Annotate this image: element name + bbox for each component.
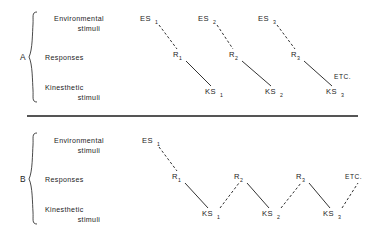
panel-b-link-r3-ks3 [309,183,330,208]
diagram-canvas: A Environmental stimuli Responses Kinest… [0,0,384,234]
panel-a-link-es1-r1 [159,25,177,49]
panel-a-node-es2: ES 2 [198,14,216,25]
panel-a-node-r1-subscript: 1 [179,55,182,61]
panel-a-link-r1-ks1 [186,61,211,86]
panel-a-node-ks1: KS 1 [205,87,223,98]
panel-a-node-es2-base: ES [198,14,209,23]
panel-a-node-es2-subscript: 2 [213,19,216,25]
panel-b-node-ks2-base: KS [262,209,273,218]
panel-a-node-ks2-base: KS [265,87,276,96]
panel-b-row-labels: Environmental stimuli Responses Kinesthe… [45,137,104,224]
panel-b-node-r1: R 1 [172,172,181,183]
panel-a-node-es3: ES 3 [258,14,276,25]
panel-a-node-r3-subscript: 3 [297,55,300,61]
panel-b-link-ks3-etc [342,183,358,208]
panel-a-node-ks3-base: KS [326,87,337,96]
panel-a-node-es1: ES 1 [140,14,158,25]
panel-a-node-ks1-subscript: 1 [220,92,223,98]
panel-b-link-es1-r1 [159,147,177,171]
panel-a-links [159,25,332,86]
panel-b-node-r2-subscript: 2 [240,177,243,183]
panel-b-link-ks2-r3 [281,183,301,208]
panel-a-node-ks1-base: KS [205,87,216,96]
panel-a-node-ks3: KS 3 [326,87,344,98]
panel-a-node-es1-subscript: 1 [155,19,158,25]
panel-b-brace-icon [29,133,37,224]
panel-a-node-r1: R 1 [173,50,182,61]
panel-b-label-environmental-line1: Environmental [54,137,104,145]
panel-b-node-ks3-subscript: 3 [338,214,341,220]
panel-b-node-ks3: KS 3 [323,209,341,220]
panel-a-label-environmental-line1: Environmental [54,15,104,23]
panel-a-nodes: ES 1 ES 2 ES 3 R 1 R 2 [140,14,351,98]
panel-a-node-ks3-subscript: 3 [341,92,344,98]
panel-b-etc-label: ETC. [345,173,362,180]
panel-b-node-ks3-base: KS [323,209,334,218]
panel-a-node-r2-subscript: 2 [235,55,238,61]
panel-b-label-responses: Responses [45,176,84,184]
panel-b-link-ks1-r2 [220,183,239,208]
panel-b-link-r2-ks2 [247,183,269,208]
panel-b-node-r3: R 3 [296,172,305,183]
panel-a-node-r2: R 2 [229,50,238,61]
panel-a-brace-icon [29,12,37,102]
panel-b-letter: B [20,174,26,184]
panel-a-node-es3-base: ES [258,14,269,23]
panel-b-links [159,147,358,208]
panel-b-node-ks2: KS 2 [262,209,280,220]
panel-a-etc-label: ETC. [334,73,351,80]
panel-b-label-environmental-line2: stimuli [78,147,101,155]
panel-b-node-ks1: KS 1 [202,209,220,220]
panel-b-node-es1-base: ES [142,136,153,145]
panel-b-brace-group: B [20,133,37,224]
panel-b-label-kinesthetic-line2: stimuli [78,216,101,224]
panel-a-label-kinesthetic-line1: Kinesthetic [45,84,84,92]
panel-b-node-r3-subscript: 3 [302,177,305,183]
panel-b-link-r1-ks1 [185,183,208,208]
panel-a-row-labels: Environmental stimuli Responses Kinesthe… [45,15,104,102]
panel-a-label-responses: Responses [45,54,84,62]
panel-a-link-r3-ks3 [304,61,332,86]
panel-a-link-es2-r2 [217,25,233,49]
panel-b-node-es1-subscript: 1 [157,141,160,147]
panel-a-label-environmental-line2: stimuli [78,25,101,33]
panel-a-node-es3-subscript: 3 [273,19,276,25]
panel-b: B Environmental stimuli Responses Kinest… [20,133,362,224]
panel-a-node-r3: R 3 [291,50,300,61]
panel-a-node-ks2: KS 2 [265,87,283,98]
diagram-figure: A Environmental stimuli Responses Kinest… [0,0,384,234]
panel-a-label-kinesthetic-line2: stimuli [78,94,101,102]
panel-b-node-es1: ES 1 [142,136,160,147]
panel-a-brace-group: A [20,12,37,102]
panel-a-link-r2-ks2 [242,61,271,86]
panel-b-node-r2: R 2 [234,172,243,183]
panel-b-node-ks1-base: KS [202,209,213,218]
panel-b-node-r1-subscript: 1 [178,177,181,183]
panel-b-label-kinesthetic-line1: Kinesthetic [45,206,84,214]
panel-a-node-es1-base: ES [140,14,151,23]
panel-b-node-ks1-subscript: 1 [217,214,220,220]
panel-b-node-ks2-subscript: 2 [277,214,280,220]
panel-a: A Environmental stimuli Responses Kinest… [20,12,351,102]
panel-a-link-es3-r3 [277,25,295,49]
panel-a-letter: A [20,52,26,62]
panel-a-node-ks2-subscript: 2 [280,92,283,98]
